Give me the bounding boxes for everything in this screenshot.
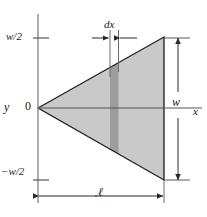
label-half-width-top: w/2 [6, 31, 22, 42]
differential-strip-group [110, 30, 119, 188]
label-length-ell: ℓ [98, 186, 103, 198]
label-strip-width-dx: dx [104, 19, 114, 30]
label-half-width-bottom: −w/2 [1, 166, 24, 177]
label-origin: 0 [25, 100, 31, 112]
label-x-axis: x [193, 106, 198, 117]
label-y-axis: y [4, 101, 9, 113]
label-total-width-w: w [172, 96, 180, 108]
wedge-diagram-figure: w/2 −w/2 y 0 x dx w ℓ [0, 0, 207, 217]
differential-strip-dx [110, 30, 119, 188]
